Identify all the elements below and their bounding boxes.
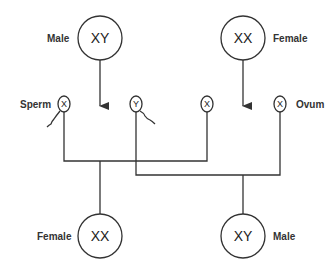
parent-male-label: Male [47,33,70,44]
ovum-x-2-chromosome: X [277,99,283,109]
sperm-x-chromosome: X [61,99,67,109]
inheritance-diagram: Male XY XX Female Sperm X Y X X Ovum Fem… [0,0,333,271]
parent-female: XX Female [221,16,308,60]
offspring-female-label: Female [37,231,72,242]
offspring-male: XY Male [221,214,296,258]
ovum-x-1-chromosome: X [204,99,210,109]
offspring-female: Female XX [37,214,122,258]
parent-female-label: Female [273,33,308,44]
parent-female-chromosomes: XX [234,30,253,46]
offspring-male-chromosomes: XY [234,228,253,244]
parent-male-chromosomes: XY [91,30,110,46]
offspring-male-label: Male [273,231,296,242]
sperm-y-tail [140,111,155,124]
sperm-label: Sperm [20,99,51,110]
ovum-x-2: X [274,96,286,112]
parent-male: Male XY [47,16,122,60]
sperm-y-chromosome: Y [133,99,139,109]
ovum-label: Ovum [296,99,324,110]
offspring-female-chromosomes: XX [91,228,110,244]
male-offspring-connector [136,112,280,175]
sperm-y: Y [130,96,155,124]
ovum-x-1: X [201,96,213,112]
sperm-x-tail [47,111,60,127]
